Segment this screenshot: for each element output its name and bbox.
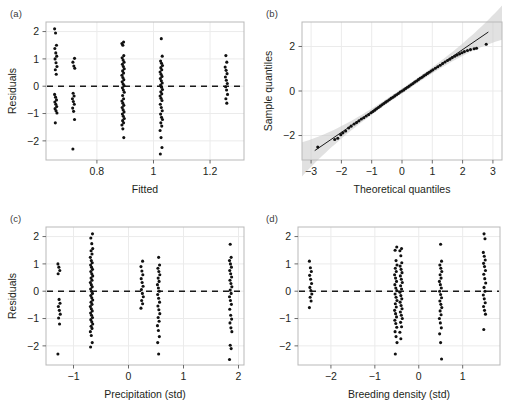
svg-text:1: 1 [33, 258, 39, 270]
diagnostic-plot-figure: (a) 0.811.2−2−1012FittedResiduals (b) −3… [0, 0, 512, 411]
svg-text:−1: −1 [366, 165, 378, 177]
svg-text:0: 0 [33, 80, 39, 92]
panel-b: (b) −3−2−10123−202Theoretical quantilesS… [256, 0, 512, 205]
svg-text:−2: −2 [279, 340, 291, 352]
svg-text:Theoretical quantiles: Theoretical quantiles [354, 183, 451, 195]
svg-text:2: 2 [236, 370, 242, 382]
svg-text:Fitted: Fitted [132, 183, 158, 195]
panel-label-c: (c) [10, 213, 21, 224]
svg-text:1: 1 [460, 370, 466, 382]
panel-c-plot: −1012−2−1012Precipitation (std)Residuals [0, 205, 256, 411]
panel-d: (d) −2−101−2−1012Breeding density (std) [256, 205, 512, 411]
svg-text:−1: −1 [369, 370, 381, 382]
svg-text:−2: −2 [283, 129, 295, 141]
svg-text:0: 0 [126, 370, 132, 382]
svg-text:1: 1 [151, 165, 157, 177]
svg-text:1: 1 [33, 53, 39, 65]
svg-text:−1: −1 [27, 312, 39, 324]
svg-text:2: 2 [33, 230, 39, 242]
svg-text:−1: −1 [68, 370, 80, 382]
panel-b-plot: −3−2−10123−202Theoretical quantilesSampl… [256, 0, 512, 205]
svg-text:1: 1 [181, 370, 187, 382]
svg-text:Residuals: Residuals [6, 68, 18, 114]
svg-text:Residuals: Residuals [6, 273, 18, 319]
panel-label-d: (d) [266, 213, 278, 224]
svg-text:1.2: 1.2 [203, 165, 218, 177]
svg-text:−2: −2 [325, 370, 337, 382]
svg-text:−1: −1 [279, 312, 291, 324]
svg-text:1: 1 [285, 258, 291, 270]
svg-text:0: 0 [33, 285, 39, 297]
svg-text:2: 2 [289, 40, 295, 52]
panel-c: (c) −1012−2−1012Precipitation (std)Resid… [0, 205, 256, 411]
svg-text:2: 2 [285, 230, 291, 242]
svg-text:−3: −3 [305, 165, 317, 177]
panel-label-a: (a) [10, 8, 22, 19]
svg-text:Precipitation (std): Precipitation (std) [104, 388, 186, 400]
svg-text:3: 3 [490, 165, 496, 177]
svg-text:−1: −1 [27, 107, 39, 119]
panel-a: (a) 0.811.2−2−1012FittedResiduals [0, 0, 256, 205]
panel-a-plot: 0.811.2−2−1012FittedResiduals [0, 0, 256, 205]
svg-text:2: 2 [33, 25, 39, 37]
panel-label-b: (b) [266, 8, 278, 19]
svg-text:−2: −2 [27, 340, 39, 352]
svg-text:0: 0 [399, 165, 405, 177]
svg-text:0: 0 [285, 285, 291, 297]
svg-text:−2: −2 [27, 135, 39, 147]
svg-text:1: 1 [429, 165, 435, 177]
svg-text:Breeding density (std): Breeding density (std) [348, 388, 450, 400]
svg-text:−2: −2 [335, 165, 347, 177]
svg-text:Sample quantiles: Sample quantiles [262, 51, 274, 132]
svg-text:0: 0 [416, 370, 422, 382]
svg-text:0.8: 0.8 [90, 165, 105, 177]
svg-text:0: 0 [289, 85, 295, 97]
svg-text:2: 2 [460, 165, 466, 177]
panel-d-plot: −2−101−2−1012Breeding density (std) [256, 205, 512, 411]
